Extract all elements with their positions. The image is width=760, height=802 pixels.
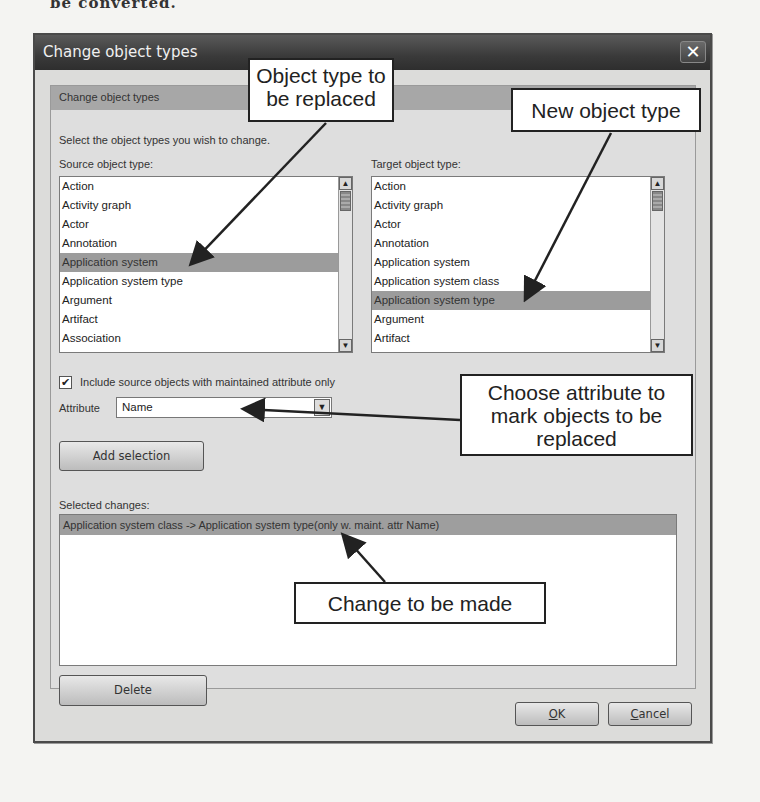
delete-button[interactable]: Delete — [59, 675, 207, 706]
list-item[interactable]: Activity graph — [372, 196, 664, 215]
add-selection-button[interactable]: Add selection — [59, 441, 204, 471]
callout-choose-attribute: Choose attribute to mark objects to be r… — [460, 374, 693, 456]
include-maintained-attribute-label: Include source objects with maintained a… — [80, 376, 335, 388]
source-object-type-list[interactable]: ActionActivity graphActorAnnotationAppli… — [59, 176, 353, 353]
list-item[interactable]: Application system class — [372, 272, 664, 291]
list-item[interactable]: Argument — [60, 291, 352, 310]
callout-new-object-type: New object type — [511, 88, 701, 132]
scroll-down-icon[interactable]: ▼ — [339, 339, 352, 352]
cancel-label: Cancel — [631, 707, 670, 721]
list-item[interactable]: Action — [60, 177, 352, 196]
target-items: ActionActivity graphActorAnnotationAppli… — [372, 177, 664, 348]
group-title: Change object types — [59, 91, 159, 103]
list-item[interactable]: Argument — [372, 310, 664, 329]
list-item[interactable]: Application system — [372, 253, 664, 272]
list-item[interactable]: Annotation — [372, 234, 664, 253]
source-items: ActionActivity graphActorAnnotationAppli… — [60, 177, 352, 348]
include-maintained-attribute-checkbox[interactable]: ✔ — [59, 376, 72, 389]
target-scrollbar[interactable]: ▲ ▼ — [650, 177, 664, 352]
list-item[interactable]: Application system — [60, 253, 352, 272]
scroll-down-icon[interactable]: ▼ — [651, 339, 664, 352]
list-item[interactable]: Annotation — [60, 234, 352, 253]
scroll-thumb[interactable] — [340, 191, 351, 211]
list-item[interactable]: Application system type — [60, 272, 352, 291]
list-item[interactable]: Actor — [60, 215, 352, 234]
list-item[interactable]: Artifact — [60, 310, 352, 329]
ok-label: OK — [549, 707, 566, 721]
ok-button[interactable]: OK — [515, 702, 599, 726]
source-object-type-label: Source object type: — [59, 158, 153, 170]
scroll-up-icon[interactable]: ▲ — [651, 177, 664, 190]
scroll-up-icon[interactable]: ▲ — [339, 177, 352, 190]
change-row[interactable]: Application system class -> Application … — [60, 515, 676, 535]
list-item[interactable]: Actor — [372, 215, 664, 234]
selected-changes-label: Selected changes: — [59, 499, 150, 511]
attribute-select[interactable]: Name ▼ — [116, 397, 332, 418]
list-item[interactable]: Action — [372, 177, 664, 196]
callout-object-type-to-be-replaced: Object type to be replaced — [248, 58, 394, 122]
attribute-label: Attribute — [59, 402, 100, 414]
callout-change-to-be-made: Change to be made — [294, 582, 546, 624]
source-scrollbar[interactable]: ▲ ▼ — [338, 177, 352, 352]
target-object-type-label: Target object type: — [371, 158, 461, 170]
dialog-title: Change object types — [43, 43, 198, 61]
instruction-text: Select the object types you wish to chan… — [59, 134, 270, 146]
scroll-thumb[interactable] — [652, 191, 663, 211]
cancel-button[interactable]: Cancel — [608, 702, 692, 726]
background-page-text: be converted. — [50, 0, 177, 12]
close-icon[interactable]: ✕ — [680, 41, 706, 63]
list-item[interactable]: Application system type — [372, 291, 664, 310]
target-object-type-list[interactable]: ActionActivity graphActorAnnotationAppli… — [371, 176, 665, 353]
list-item[interactable]: Association — [60, 329, 352, 348]
chevron-down-icon[interactable]: ▼ — [314, 399, 330, 416]
list-item[interactable]: Artifact — [372, 329, 664, 348]
list-item[interactable]: Activity graph — [60, 196, 352, 215]
attribute-value: Name — [122, 401, 153, 413]
